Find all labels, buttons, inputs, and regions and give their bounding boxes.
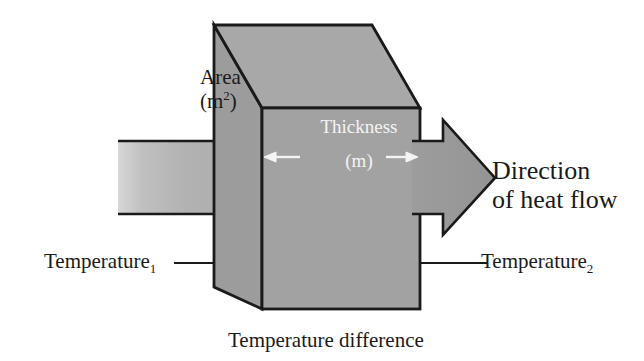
heat-out-arrow	[412, 120, 495, 235]
temperature-1-subscript: 1	[150, 261, 157, 276]
temperature-2-subscript: 2	[587, 261, 594, 276]
area-label: Area (m2)	[200, 66, 241, 113]
temperature-1-label: Temperature1	[44, 250, 156, 274]
temperature-1-text: Temperature	[44, 249, 150, 273]
area-unit-label: (m2)	[200, 90, 241, 114]
temperature-difference-label: Temperature difference	[228, 329, 424, 353]
thickness-label: Thickness	[296, 116, 422, 137]
direction-of-heat-flow-label: Direction of heat flow	[492, 156, 618, 214]
area-label-text: Area	[200, 65, 241, 89]
temperature-2-label: Temperature2	[481, 250, 593, 274]
direction-line-2: of heat flow	[492, 185, 618, 214]
direction-line-1: Direction	[492, 156, 618, 185]
heat-conduction-diagram: Area (m2) Thickness (m) Direction of hea…	[0, 0, 644, 361]
thickness-unit-label: (m)	[296, 150, 422, 171]
temperature-2-text: Temperature	[481, 249, 587, 273]
block-front-face	[262, 108, 420, 309]
